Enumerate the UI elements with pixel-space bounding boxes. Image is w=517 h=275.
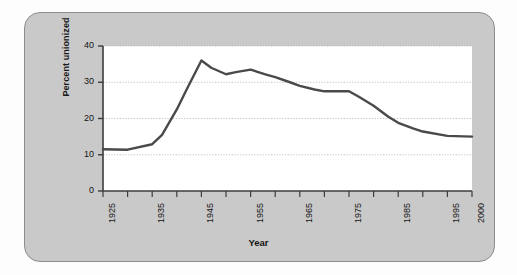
x-axis-tick-labels: 192519351945195519651975198519952000 xyxy=(0,0,517,275)
x-axis-tick-label: 2000 xyxy=(476,203,486,223)
x-axis-tick-label: 1935 xyxy=(156,203,166,223)
x-axis-tick-label: 1955 xyxy=(255,203,265,223)
x-axis-tick-label: 1995 xyxy=(451,203,461,223)
x-axis-tick-label: 1985 xyxy=(402,203,412,223)
x-axis-tick-label: 1965 xyxy=(304,203,314,223)
x-axis-label: Year xyxy=(0,237,517,248)
figure-root: Percent unionized 010203040 192519351945… xyxy=(0,0,517,275)
x-axis-tick-label: 1945 xyxy=(205,203,215,223)
x-axis-tick-label: 1975 xyxy=(353,203,363,223)
x-axis-tick-label: 1925 xyxy=(107,203,117,223)
